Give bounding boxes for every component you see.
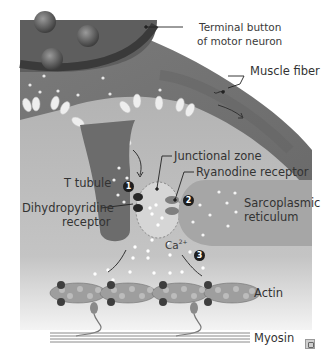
terminal-button-label-line1: Terminal button bbox=[199, 21, 281, 33]
step-2-badge: 2 bbox=[183, 195, 194, 206]
sarcoplasmic-label-line2: reticulum bbox=[244, 211, 299, 223]
terminal-button-label-line2: of motor neuron bbox=[197, 35, 282, 47]
step-1-badge: 1 bbox=[123, 181, 134, 192]
calcium-charge: 2+ bbox=[179, 238, 188, 245]
dihydropyridine-label-line1: Dihydropyridine bbox=[22, 202, 114, 214]
diagram-canvas: Terminal button of motor neuron Muscle f… bbox=[0, 0, 329, 359]
step-3-badge: 3 bbox=[194, 250, 205, 261]
myosin-filament bbox=[50, 333, 250, 342]
dihydropyridine-label-line2: receptor bbox=[62, 216, 111, 228]
muscle-fiber-label: Muscle fiber bbox=[250, 65, 320, 77]
sarcoplasmic-label-line1: Sarcoplasmic bbox=[244, 197, 320, 209]
t-tubule-label: T tubule bbox=[64, 177, 111, 189]
myosin-label: Myosin bbox=[254, 332, 294, 344]
actin-label: Actin bbox=[254, 287, 283, 299]
diagram-illustration bbox=[0, 0, 329, 359]
calcium-symbol: Ca bbox=[165, 239, 179, 251]
calcium-label: Ca2+ bbox=[165, 236, 188, 251]
expand-icon[interactable] bbox=[305, 339, 315, 349]
ryanodine-receptor-label: Ryanodine receptor bbox=[196, 166, 309, 178]
junctional-zone-label: Junctional zone bbox=[174, 150, 262, 162]
